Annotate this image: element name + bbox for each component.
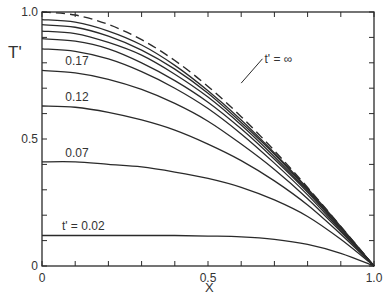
y-axis-label: T' xyxy=(8,43,22,62)
x-axis-label: X xyxy=(205,280,214,295)
y-tick-label: 0 xyxy=(31,259,38,273)
y-tick-label: 0.5 xyxy=(21,132,38,146)
line-chart: 00.51.000.51.0 t' = ∞0.170.120.07t' = 0.… xyxy=(0,0,387,304)
curve-t-0-07 xyxy=(42,162,374,266)
leader-line xyxy=(241,59,262,83)
curve-label: 0.07 xyxy=(65,146,89,160)
curve-label: 0.17 xyxy=(65,54,89,68)
curve-label: 0.12 xyxy=(65,90,89,104)
x-tick-label: 0 xyxy=(39,271,46,285)
y-tick-label: 1.0 xyxy=(21,5,38,19)
x-tick-label: 1.0 xyxy=(366,271,383,285)
curve-label: t' = 0.02 xyxy=(62,219,105,233)
curve-t-0-12 xyxy=(42,106,374,266)
curve-labels: t' = ∞0.170.120.07t' = 0.02 xyxy=(62,52,292,234)
curve-label: t' = ∞ xyxy=(264,52,292,66)
